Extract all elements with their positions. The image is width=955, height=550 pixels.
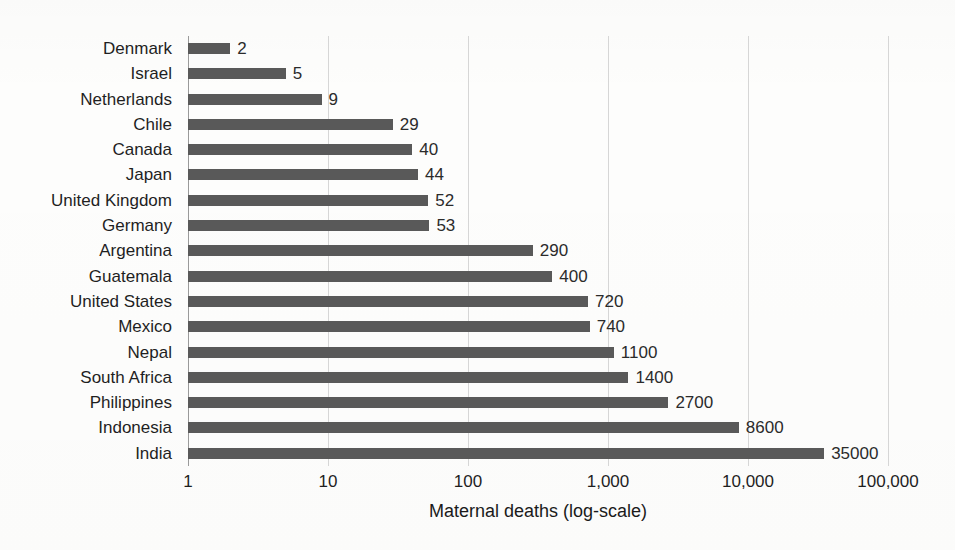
bar-row: 2700	[188, 390, 888, 415]
x-tick-label: 10,000	[722, 470, 774, 494]
bar-row: 1400	[188, 365, 888, 390]
category-label: United Kingdom	[0, 188, 172, 213]
bar[interactable]	[188, 68, 286, 79]
bar-row: 53	[188, 213, 888, 238]
bar[interactable]	[188, 195, 428, 206]
bar-row: 5	[188, 61, 888, 86]
category-label: Denmark	[0, 36, 172, 61]
bar-value-label: 35000	[831, 443, 878, 464]
bar[interactable]	[188, 448, 824, 459]
bar-row: 40	[188, 137, 888, 162]
category-label: United States	[0, 289, 172, 314]
bar-value-label: 52	[435, 190, 454, 211]
bar-value-label: 2700	[675, 392, 713, 413]
bar-row: 1100	[188, 340, 888, 365]
bar-value-label: 40	[419, 139, 438, 160]
bar-value-label: 2	[237, 38, 246, 59]
bar-value-label: 9	[329, 89, 338, 110]
category-label: Philippines	[0, 390, 172, 415]
bar-value-label: 29	[400, 114, 419, 135]
bar[interactable]	[188, 372, 628, 383]
bar[interactable]	[188, 347, 614, 358]
maternal-deaths-bar-chart: DenmarkIsraelNetherlandsChileCanadaJapan…	[0, 0, 955, 550]
x-tick-label: 1,000	[587, 470, 630, 494]
bar-row: 9	[188, 87, 888, 112]
category-label: Canada	[0, 137, 172, 162]
bar-value-label: 400	[559, 266, 587, 287]
bar-row: 740	[188, 314, 888, 339]
bar-value-label: 53	[436, 215, 455, 236]
bar-value-label: 44	[425, 164, 444, 185]
bar-row: 290	[188, 238, 888, 263]
bar-value-label: 5	[293, 63, 302, 84]
bar[interactable]	[188, 245, 533, 256]
category-label: Chile	[0, 112, 172, 137]
bar-row: 720	[188, 289, 888, 314]
bar-value-label: 1100	[621, 342, 658, 363]
bar[interactable]	[188, 119, 393, 130]
bar-row: 8600	[188, 415, 888, 440]
x-axis-tick-labels: 1101001,00010,000100,000	[188, 470, 888, 496]
x-tick-label: 100,000	[857, 470, 918, 494]
bar-row: 2	[188, 36, 888, 61]
bar-row: 400	[188, 264, 888, 289]
category-label: South Africa	[0, 365, 172, 390]
bar-value-label: 1400	[635, 367, 673, 388]
category-label: India	[0, 441, 172, 466]
x-tick-label: 10	[319, 470, 338, 494]
bar-rows: 2592940445253290400720740110014002700860…	[188, 36, 888, 466]
bar[interactable]	[188, 321, 590, 332]
bar[interactable]	[188, 296, 588, 307]
category-label: Germany	[0, 213, 172, 238]
category-label: Argentina	[0, 238, 172, 263]
x-axis-title: Maternal deaths (log-scale)	[188, 498, 888, 524]
category-label: Guatemala	[0, 264, 172, 289]
bar-value-label: 290	[540, 240, 568, 261]
bar[interactable]	[188, 397, 668, 408]
bar[interactable]	[188, 94, 322, 105]
category-label: Nepal	[0, 340, 172, 365]
bar[interactable]	[188, 144, 412, 155]
category-label: Indonesia	[0, 415, 172, 440]
bar[interactable]	[188, 220, 429, 231]
bar[interactable]	[188, 43, 230, 54]
bar-row: 35000	[188, 441, 888, 466]
category-label: Netherlands	[0, 87, 172, 112]
bar[interactable]	[188, 271, 552, 282]
x-tick-label: 100	[454, 470, 482, 494]
bar[interactable]	[188, 422, 739, 433]
bar-value-label: 740	[597, 316, 625, 337]
gridline	[888, 36, 889, 466]
category-label: Japan	[0, 162, 172, 187]
category-axis-labels: DenmarkIsraelNetherlandsChileCanadaJapan…	[0, 36, 180, 466]
category-label: Israel	[0, 61, 172, 86]
bar-value-label: 8600	[746, 417, 784, 438]
bar-value-label: 720	[595, 291, 623, 312]
bar-row: 44	[188, 162, 888, 187]
bar-row: 29	[188, 112, 888, 137]
x-tick-label: 1	[183, 470, 192, 494]
category-label: Mexico	[0, 314, 172, 339]
bar-row: 52	[188, 188, 888, 213]
bar[interactable]	[188, 169, 418, 180]
plot-area: 2592940445253290400720740110014002700860…	[188, 36, 888, 466]
